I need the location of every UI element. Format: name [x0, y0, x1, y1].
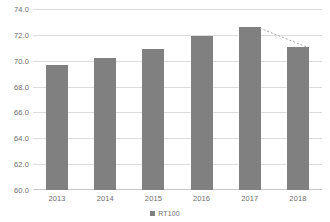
gridline	[33, 35, 322, 36]
y-axis-tick-label: 66.0	[0, 108, 29, 117]
y-axis-tick-label: 60.0	[0, 186, 29, 195]
legend-swatch-icon	[150, 211, 155, 216]
x-axis-tick-label: 2018	[274, 194, 322, 203]
x-axis-tick-label: 2013	[33, 194, 81, 203]
gridline	[33, 138, 322, 139]
gridline	[33, 61, 322, 62]
gridline	[33, 87, 322, 88]
y-axis-tick-label: 68.0	[0, 82, 29, 91]
bar[interactable]	[46, 65, 68, 190]
bar[interactable]	[191, 36, 213, 190]
legend-item[interactable]: RT100	[150, 210, 179, 217]
y-axis-tick-label: 64.0	[0, 134, 29, 143]
chart-title	[0, 0, 330, 2]
y-axis-tick-label: 70.0	[0, 56, 29, 65]
y-axis-tick-label: 72.0	[0, 30, 29, 39]
y-axis-tick-label: 62.0	[0, 160, 29, 169]
x-axis-tick-label: 2014	[81, 194, 129, 203]
x-axis-tick-label: 2015	[129, 194, 177, 203]
bar[interactable]	[94, 58, 116, 190]
bar[interactable]	[239, 27, 261, 190]
gridline	[33, 9, 322, 10]
plot-area	[33, 9, 322, 190]
gridline	[33, 164, 322, 165]
y-axis-tick-label: 74.0	[0, 5, 29, 14]
legend-label: RT100	[158, 210, 179, 217]
x-axis-line	[33, 189, 322, 190]
x-axis-tick-label: 2016	[178, 194, 226, 203]
bar[interactable]	[287, 47, 309, 191]
x-axis-tick-label: 2017	[226, 194, 274, 203]
legend: RT100	[0, 210, 330, 217]
bar-chart: 74.072.070.068.066.064.062.060.0 2013201…	[0, 0, 330, 222]
bar[interactable]	[142, 49, 164, 190]
gridline	[33, 112, 322, 113]
